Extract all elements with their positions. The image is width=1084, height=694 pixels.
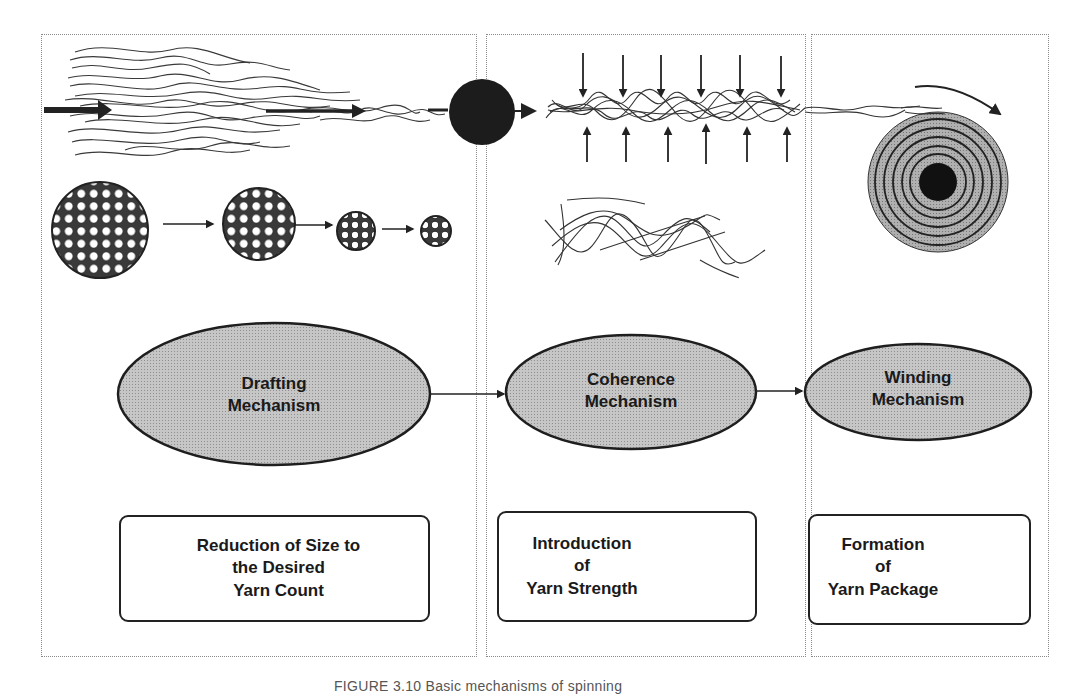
- coherence-mechanism-label: Coherence Mechanism: [531, 356, 731, 426]
- rotation-arrow-icon: [915, 86, 1000, 114]
- twisted-strand-icon: [546, 89, 920, 121]
- label-line: Drafting: [241, 373, 306, 395]
- label-line: Mechanism: [872, 389, 965, 411]
- label-line: the Desired: [232, 557, 325, 579]
- label-line: Introduction: [532, 533, 631, 555]
- yarn-package-icon: [868, 112, 1008, 252]
- winding-mechanism-label: Winding Mechanism: [818, 354, 1018, 424]
- label-line: Yarn Strength: [526, 578, 637, 600]
- drafting-mechanism-label: Drafting Mechanism: [174, 360, 374, 430]
- fiber-strand-icon: [65, 48, 445, 156]
- label-line: Mechanism: [228, 395, 321, 417]
- label-line: Yarn Package: [828, 579, 939, 601]
- winding-function-label: Formation of Yarn Package: [808, 512, 958, 623]
- label-line: Reduction of Size to: [197, 535, 360, 557]
- drafting-function-label: Reduction of Size to the Desired Yarn Co…: [119, 515, 430, 622]
- label-line: of: [574, 555, 590, 577]
- figure-caption: FIGURE 3.10 Basic mechanisms of spinning: [334, 678, 622, 694]
- coherence-function-label: Introduction of Yarn Strength: [497, 511, 667, 622]
- label-line: Coherence: [587, 369, 675, 391]
- label-line: Mechanism: [585, 391, 678, 413]
- label-line: Winding: [885, 367, 952, 389]
- loose-fibers-icon: [545, 198, 765, 278]
- label-line: Yarn Count: [233, 580, 324, 602]
- label-line: of: [875, 556, 891, 578]
- cross-section-icons: [52, 182, 451, 278]
- label-line: Formation: [841, 534, 924, 556]
- nip-roller-icon: [449, 79, 515, 145]
